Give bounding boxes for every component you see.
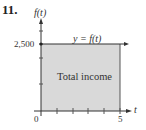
curve-label: y = f(t) (73, 34, 101, 44)
y-axis-label: f(t) (34, 8, 46, 18)
chart-canvas (0, 0, 146, 130)
x-axis-arrow-icon (126, 109, 132, 113)
x-tick-label-5: 5 (118, 115, 123, 124)
y-tick-2500-marker (39, 42, 42, 45)
function-line-arrow-icon (124, 42, 129, 46)
region-label: Total income (57, 72, 112, 83)
y-tick-label-2500: 2,500 (14, 40, 34, 49)
x-axis-label: t (134, 105, 137, 115)
y-axis-arrow-icon (39, 18, 43, 24)
x-tick-label-0: 0 (34, 115, 39, 124)
